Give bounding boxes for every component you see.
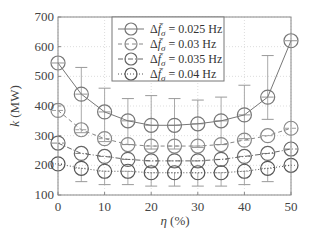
x-tick-label: 40 — [238, 199, 251, 214]
y-tick-label: 100 — [35, 187, 55, 202]
legend-label: Δf̄σ = 0.025 Hz — [150, 22, 222, 38]
y-tick-label: 300 — [35, 128, 55, 143]
y-axis-ticks: 100200300400500600700 — [35, 9, 62, 202]
x-tick-label: 30 — [191, 199, 204, 214]
legend-label: Δf̄σ = 0.035 Hz — [150, 52, 222, 68]
y-tick-label: 200 — [35, 157, 55, 172]
legend-label: Δf̄σ = 0.04 Hz — [150, 67, 216, 83]
x-tick-label: 0 — [55, 199, 62, 214]
legend: Δf̄σ = 0.025 HzΔf̄σ = 0.03 HzΔf̄σ = 0.03… — [112, 17, 224, 83]
y-tick-label: 700 — [35, 9, 55, 24]
y-tick-label: 400 — [35, 98, 55, 113]
x-tick-label: 20 — [145, 199, 158, 214]
x-axis-label: η (%) — [160, 213, 189, 228]
y-tick-label: 600 — [35, 39, 55, 54]
line-chart: 01020304050 100200300400500600700 η (%) … — [0, 0, 313, 239]
y-axis-label: k (MW) — [7, 85, 22, 127]
y-tick-label: 500 — [35, 68, 55, 83]
legend-label: Δf̄σ = 0.03 Hz — [150, 37, 216, 53]
x-tick-label: 50 — [285, 199, 298, 214]
x-tick-label: 10 — [98, 199, 111, 214]
